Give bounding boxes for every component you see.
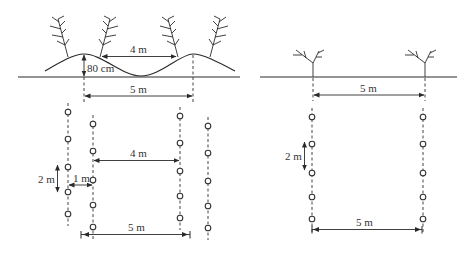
plant-marker [205,178,211,184]
tree-icon [405,50,436,77]
plant-marker [420,170,426,176]
plant-marker [65,109,71,115]
row-spacing-label: 5 m [356,216,373,228]
in-row-spacing-label: 2 m [285,150,302,162]
plant-marker [205,203,211,209]
row-spacing-label: 5 m [360,82,377,94]
plant-marker [309,114,315,120]
planting-layout-diagram: 4 m 80 cm 5 m [0,0,471,255]
right-plan: 2 m 5 m [285,108,426,233]
right-profile: 5 m [260,50,457,101]
tree-icon [99,16,118,57]
plant-marker [309,194,315,200]
plant-marker [90,202,96,208]
plant-marker [65,211,71,217]
plant-marker [205,150,211,156]
plant-marker [420,194,426,200]
left-plan: 4 m 2 m 1 m 5 m [38,103,211,240]
tree-icon [160,16,179,57]
plant-marker [177,168,183,174]
ridge-spacing-label: 5 m [128,221,145,233]
ridge-height-label: 80 cm [87,62,115,74]
tree-icon [293,50,324,77]
plant-marker [90,121,96,127]
plant-marker [65,164,71,170]
ridge-mound-curve [45,54,235,76]
left-profile: 4 m 80 cm 5 m [18,16,240,104]
plant-marker [177,140,183,146]
plant-marker [205,225,211,231]
plant-marker [309,170,315,176]
plant-marker [177,113,183,119]
plant-marker [90,224,96,230]
plant-marker [420,114,426,120]
ridge-center-spacing-label: 5 m [130,83,147,95]
plant-marker [205,123,211,129]
tree-icon [209,16,228,57]
plant-marker [90,148,96,154]
plant-marker [420,141,426,147]
in-row-spacing-label: 2 m [38,173,55,185]
plant-marker [309,141,315,147]
plant-marker [90,177,96,183]
row-spacing-on-ridge-label: 4 m [130,43,147,55]
tree-icon [50,16,69,57]
stagger-offset-label: 1 m [73,172,90,184]
plant-marker [65,136,71,142]
plant-marker [309,216,315,222]
plant-marker [177,193,183,199]
plant-marker [65,189,71,195]
plant-marker [420,216,426,222]
plant-marker [177,215,183,221]
inner-row-spacing-label: 4 m [130,147,147,159]
